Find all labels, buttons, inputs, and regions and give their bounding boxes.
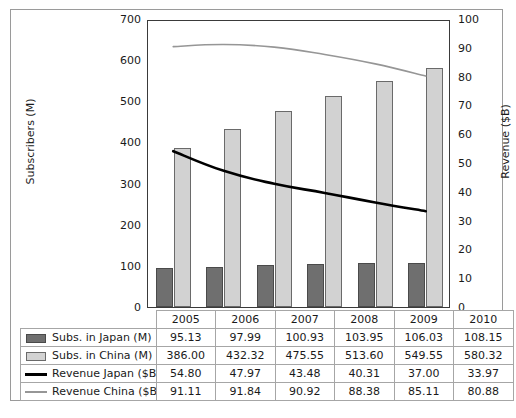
right-tick-label: 60	[458, 129, 498, 140]
table-row: Subs. in China (M)386.00432.32475.55513.…	[21, 347, 514, 365]
table-cell: 549.55	[394, 347, 454, 365]
table-year-header: 2006	[216, 311, 276, 329]
table-cell: 108.15	[454, 329, 514, 347]
table-cell: 513.60	[335, 347, 395, 365]
chart-figure: Subscribers (M) Revenue ($B) 01002003004…	[0, 0, 516, 418]
legend-swatch-japan-bar	[23, 331, 49, 344]
table-cell: 100.93	[275, 329, 335, 347]
table-corner-cell	[21, 311, 157, 329]
table-cell: 91.11	[156, 383, 216, 401]
table-cell: 103.95	[335, 329, 395, 347]
table-cell: 33.97	[454, 365, 514, 383]
table-cell: 97.99	[216, 329, 276, 347]
table-cell: 580.32	[454, 347, 514, 365]
table-row-header: Subs. in China (M)	[21, 347, 157, 365]
table-cell: 80.88	[454, 383, 514, 401]
right-tick-label: 80	[458, 72, 498, 83]
left-tick-label: 500	[101, 96, 141, 107]
table-row-header: Revenue Japan ($B)	[21, 365, 157, 383]
table-cell: 90.92	[275, 383, 335, 401]
table-row: Subs. in Japan (M)95.1397.99100.93103.95…	[21, 329, 514, 347]
table-year-header: 2010	[454, 311, 514, 329]
right-tick-label: 100	[458, 14, 498, 25]
left-tick-label: 300	[101, 179, 141, 190]
plot-inner	[148, 21, 449, 307]
table-row-header: Revenue China ($B)	[21, 383, 157, 401]
right-tick-label: 90	[458, 43, 498, 54]
table-cell: 40.31	[335, 365, 395, 383]
left-tick-label: 200	[101, 220, 141, 231]
right-tick-label: 40	[458, 187, 498, 198]
data-table: 200520062007200820092010Subs. in Japan (…	[20, 310, 514, 401]
right-tick-label: 20	[458, 244, 498, 255]
table-cell: 91.84	[216, 383, 276, 401]
table-cell: 88.38	[335, 383, 395, 401]
table-cell: 475.55	[275, 347, 335, 365]
table-row: Revenue China ($B)91.1191.8490.9288.3885…	[21, 383, 514, 401]
table-header-row: 200520062007200820092010	[21, 311, 514, 329]
table-cell: 43.48	[275, 365, 335, 383]
right-tick-label: 30	[458, 216, 498, 227]
legend-swatch-china-bar	[23, 349, 49, 362]
plot-area	[147, 20, 450, 308]
table-row-label: Subs. in Japan (M)	[49, 331, 151, 344]
legend-swatch-japan-line	[23, 367, 49, 380]
table-cell: 85.11	[394, 383, 454, 401]
legend-swatch-china-line	[23, 385, 49, 398]
table-cell: 37.00	[394, 365, 454, 383]
table-cell: 47.97	[216, 365, 276, 383]
right-tick-label: 10	[458, 273, 498, 284]
left-tick-label: 600	[101, 55, 141, 66]
right-tick-label: 50	[458, 158, 498, 169]
table-row-header: Subs. in Japan (M)	[21, 329, 157, 347]
table-year-header: 2007	[275, 311, 335, 329]
right-axis-title: Revenue ($B)	[499, 52, 512, 232]
line-revenue-japan	[173, 151, 426, 211]
table-cell: 386.00	[156, 347, 216, 365]
table-cell: 106.03	[394, 329, 454, 347]
table-cell: 95.13	[156, 329, 216, 347]
table-cell: 432.32	[216, 347, 276, 365]
table-row: Revenue Japan ($B)54.8047.9743.4840.3137…	[21, 365, 514, 383]
left-tick-label: 100	[101, 261, 141, 272]
table-year-header: 2008	[335, 311, 395, 329]
lines-layer	[148, 21, 449, 307]
left-tick-label: 400	[101, 137, 141, 148]
table-cell: 54.80	[156, 365, 216, 383]
left-axis-title: Subscribers (M)	[24, 52, 37, 232]
left-tick-label: 700	[101, 14, 141, 25]
table-year-header: 2005	[156, 311, 216, 329]
table-row-label: Revenue China ($B)	[49, 385, 156, 398]
table-row-label: Revenue Japan ($B)	[49, 367, 156, 380]
table-year-header: 2009	[394, 311, 454, 329]
line-revenue-china	[173, 44, 426, 76]
right-tick-label: 70	[458, 100, 498, 111]
table-row-label: Subs. in China (M)	[49, 349, 152, 362]
